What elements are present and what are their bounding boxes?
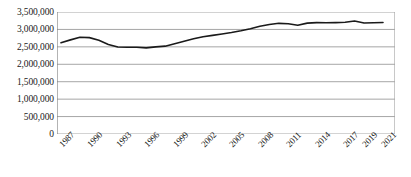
y-axis-tick-label: 0 [0,129,54,139]
gridlines [57,12,395,134]
y-axis-tick-label: 3,000,000 [0,24,54,34]
y-axis-tick-label: 2,500,000 [0,42,54,52]
y-axis-tick-label: 1,000,000 [0,94,54,104]
x-axis-tick-labels: 1987199019931996199920022005200820112014… [57,134,411,177]
y-axis-tick-label: 1,500,000 [0,77,54,87]
y-axis-tick-label: 500,000 [0,112,54,122]
line-chart-svg [57,12,395,134]
y-axis-tick-label: 3,500,000 [0,7,54,17]
y-axis-tick-label: 2,000,000 [0,59,54,69]
data-series-line [61,21,383,48]
plot-area [57,12,395,134]
chart-screenshot: 3,500,0003,000,0002,500,0002,000,0001,50… [0,0,411,177]
y-axis-tick-labels: 3,500,0003,000,0002,500,0002,000,0001,50… [0,0,54,177]
